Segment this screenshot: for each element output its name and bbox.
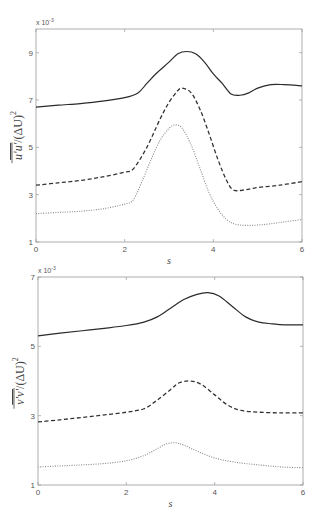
y-tick-label: 7: [29, 96, 34, 105]
x-tick-label: 2: [122, 245, 127, 254]
chart-panel-uu: 024613579x 10-3su'u'/(ΔU)2: [9, 17, 305, 266]
y-scale-label: x 10-3: [36, 17, 54, 26]
x-axis-label: s: [167, 255, 171, 266]
x-tick-label: 4: [212, 488, 217, 497]
y-tick-label: 3: [29, 191, 34, 200]
y-scale-label: x 10-3: [38, 265, 56, 274]
chart-panel-vv: 02461357x 10-3sv'v'/(ΔU)2: [11, 265, 306, 509]
series-dotted: [36, 125, 302, 226]
x-tick-label: 6: [301, 488, 306, 497]
y-tick-label: 9: [29, 49, 34, 58]
x-tick-label: 4: [211, 245, 216, 254]
x-tick-label: 2: [124, 488, 129, 497]
x-tick-label: 0: [36, 488, 41, 497]
x-axis-label: s: [169, 498, 173, 509]
x-tick-label: 6: [300, 245, 305, 254]
y-tick-label: 1: [29, 238, 34, 247]
y-tick-label: 5: [29, 143, 34, 152]
series-solid: [38, 293, 303, 336]
figure: 024613579x 10-3su'u'/(ΔU)2 02461357x 10-…: [0, 0, 321, 516]
y-tick-label: 1: [31, 481, 36, 490]
y-axis-label: v'v'/(ΔU)2: [11, 357, 27, 405]
y-axis-label: u'u'/(ΔU)2: [9, 111, 25, 160]
series-solid: [36, 51, 302, 107]
y-tick-label: 5: [31, 342, 36, 351]
x-tick-label: 0: [34, 245, 39, 254]
y-tick-label: 7: [31, 273, 36, 282]
y-tick-label: 3: [31, 412, 36, 421]
series-dotted: [38, 443, 303, 468]
axes-box: [36, 29, 302, 242]
series-dashed: [38, 381, 303, 422]
